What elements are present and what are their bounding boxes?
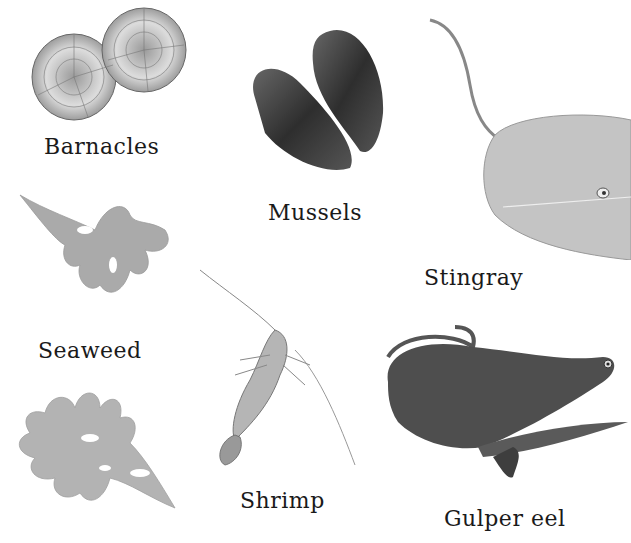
shrimp-label: Shrimp — [240, 488, 325, 513]
seaweed-bottom-illustration — [10, 383, 180, 518]
mussels-label: Mussels — [268, 200, 362, 225]
stingray-label: Stingray — [424, 265, 523, 290]
seaweed-label: Seaweed — [38, 338, 142, 363]
barnacles-label: Barnacles — [44, 134, 159, 159]
stingray-illustration — [425, 15, 631, 260]
gulper-eel-label: Gulper eel — [444, 506, 565, 531]
gulper-eel-illustration — [383, 322, 628, 482]
mussels-illustration — [245, 28, 390, 178]
barnacles-illustration — [28, 5, 188, 125]
shrimp-illustration — [195, 265, 360, 475]
seaweed-top-illustration — [15, 190, 175, 310]
